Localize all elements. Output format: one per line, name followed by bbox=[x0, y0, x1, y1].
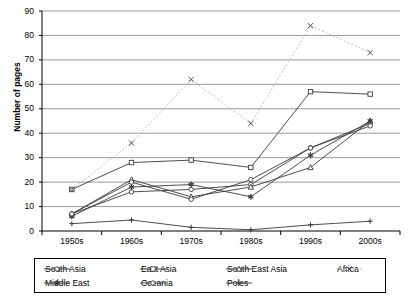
legend-swatch-circle-icon bbox=[139, 278, 167, 288]
legend-item-middle-east[interactable]: Middle East bbox=[43, 278, 89, 288]
data-point-marker bbox=[55, 267, 59, 271]
chart-container: Number of pages 0102030405060708090 1950… bbox=[0, 0, 418, 297]
data-point-marker bbox=[151, 267, 155, 271]
series-africa bbox=[69, 23, 373, 192]
data-point-marker bbox=[129, 140, 134, 145]
series-south-asia bbox=[70, 121, 373, 216]
data-point-marker bbox=[368, 219, 373, 224]
data-point-marker bbox=[189, 187, 193, 191]
series-line bbox=[72, 121, 370, 214]
series-line bbox=[72, 126, 370, 214]
data-point-marker bbox=[129, 180, 133, 184]
legend-swatch-triangle-icon bbox=[225, 264, 253, 274]
data-point-marker bbox=[308, 146, 312, 150]
series-east-asia bbox=[70, 89, 373, 191]
legend-item-poles[interactable]: Poles bbox=[225, 278, 248, 288]
data-point-marker bbox=[129, 190, 133, 194]
data-point-marker bbox=[189, 225, 194, 230]
data-point-marker bbox=[248, 227, 253, 232]
legend-swatch-cross-icon bbox=[335, 264, 363, 274]
series-line bbox=[72, 26, 370, 190]
data-point-marker bbox=[69, 221, 74, 226]
data-point-marker bbox=[368, 92, 372, 96]
data-point-marker bbox=[236, 280, 241, 285]
legend-item-africa[interactable]: Africa bbox=[335, 264, 359, 274]
legend-swatch-square-icon bbox=[139, 264, 167, 274]
series-line bbox=[72, 220, 370, 230]
data-point-marker bbox=[151, 281, 155, 285]
data-point-marker bbox=[129, 160, 133, 164]
series-line bbox=[72, 92, 370, 190]
series-line bbox=[72, 121, 370, 216]
legend-item-south-asia[interactable]: South Asia bbox=[43, 264, 86, 274]
legend-swatch-circle-icon bbox=[43, 264, 71, 274]
legend-swatch-plus-icon bbox=[225, 278, 253, 288]
data-point-marker bbox=[249, 165, 253, 169]
plot-area bbox=[0, 0, 418, 297]
data-point-marker bbox=[346, 266, 351, 271]
data-point-marker bbox=[248, 121, 253, 126]
data-point-marker bbox=[308, 222, 313, 227]
legend: South AsiaEast AsiaSouth East AsiaAfrica… bbox=[34, 258, 386, 293]
data-point-marker bbox=[70, 212, 74, 216]
data-point-marker bbox=[368, 50, 373, 55]
data-point-marker bbox=[189, 197, 193, 201]
legend-item-south-east-asia[interactable]: South East Asia bbox=[225, 264, 287, 274]
data-point-marker bbox=[308, 23, 313, 28]
data-point-marker bbox=[129, 217, 134, 222]
data-point-marker bbox=[189, 158, 193, 162]
data-point-marker bbox=[249, 177, 253, 181]
data-point-marker bbox=[189, 77, 194, 82]
legend-item-oceania[interactable]: Oceania bbox=[139, 278, 173, 288]
series-line bbox=[72, 123, 370, 213]
legend-item-east-asia[interactable]: East Asia bbox=[139, 264, 176, 274]
data-point-marker bbox=[368, 124, 372, 128]
legend-swatch-star-icon bbox=[43, 278, 71, 288]
data-point-marker bbox=[308, 89, 312, 93]
data-point-marker bbox=[308, 165, 313, 170]
series-poles bbox=[69, 217, 373, 232]
